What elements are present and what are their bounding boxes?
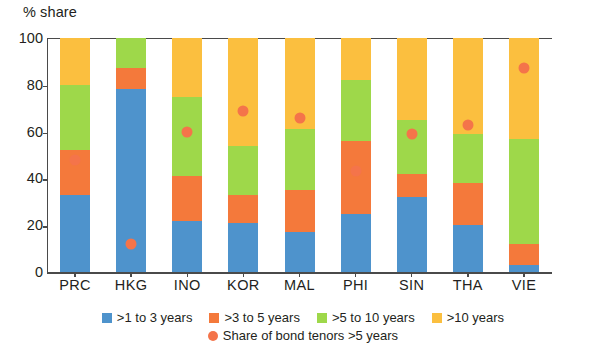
bar-segment[interactable] <box>285 190 315 232</box>
stacked-bar[interactable] <box>397 38 427 272</box>
legend-item-label: >3 to 5 years <box>224 310 300 325</box>
bars-container <box>47 38 552 272</box>
bar-segment[interactable] <box>228 38 258 146</box>
bar-group[interactable] <box>60 38 90 272</box>
stacked-bar[interactable] <box>228 38 258 272</box>
bar-group[interactable] <box>341 38 371 272</box>
overlay-marker[interactable] <box>350 166 361 177</box>
x-axis-tick-label: THA <box>440 277 496 293</box>
legend-row-series: >1 to 3 years>3 to 5 years>5 to 10 years… <box>102 310 504 325</box>
bar-segment[interactable] <box>453 134 483 183</box>
chart-legend: >1 to 3 years>3 to 5 years>5 to 10 years… <box>0 310 606 343</box>
legend-row-overlay: Share of bond tenors >5 years <box>208 328 398 343</box>
x-axis-tick-label: SIN <box>384 277 440 293</box>
bar-group[interactable] <box>453 38 483 272</box>
bar-segment[interactable] <box>172 221 202 272</box>
overlay-marker[interactable] <box>70 154 81 165</box>
bar-group[interactable] <box>397 38 427 272</box>
bar-segment[interactable] <box>60 195 90 272</box>
legend-circle-icon <box>208 331 218 341</box>
bar-group[interactable] <box>172 38 202 272</box>
y-axis-tick-label: 60 <box>7 124 43 140</box>
legend-square-icon <box>102 313 112 323</box>
legend-item[interactable]: Share of bond tenors >5 years <box>208 328 398 343</box>
overlay-marker[interactable] <box>406 128 417 139</box>
stacked-bar[interactable] <box>453 38 483 272</box>
overlay-marker[interactable] <box>126 238 137 249</box>
bar-segment[interactable] <box>172 38 202 97</box>
x-axis-tick-label: MAL <box>271 277 327 293</box>
x-axis-tick-label: PRC <box>47 277 103 293</box>
legend-item[interactable]: >10 years <box>432 310 504 325</box>
legend-square-icon <box>432 313 442 323</box>
bar-segment[interactable] <box>228 223 258 272</box>
legend-item[interactable]: >1 to 3 years <box>102 310 193 325</box>
bar-segment[interactable] <box>60 85 90 151</box>
bar-segment[interactable] <box>228 195 258 223</box>
bar-segment[interactable] <box>341 80 371 141</box>
overlay-marker[interactable] <box>518 63 529 74</box>
bar-segment[interactable] <box>285 232 315 272</box>
legend-square-icon <box>317 313 327 323</box>
legend-item-label: Share of bond tenors >5 years <box>223 328 398 343</box>
bar-segment[interactable] <box>60 38 90 85</box>
x-axis-tick-label: KOR <box>215 277 271 293</box>
bar-segment[interactable] <box>397 197 427 272</box>
overlay-marker[interactable] <box>182 126 193 137</box>
legend-item[interactable]: >3 to 5 years <box>209 310 300 325</box>
stacked-bar[interactable] <box>285 38 315 272</box>
bar-segment[interactable] <box>509 244 539 265</box>
bar-segment[interactable] <box>116 38 146 68</box>
overlay-marker[interactable] <box>294 112 305 123</box>
x-axis-tick-label: INO <box>159 277 215 293</box>
bar-segment[interactable] <box>453 225 483 272</box>
bar-group[interactable] <box>116 38 146 272</box>
stacked-bar[interactable] <box>172 38 202 272</box>
bar-segment[interactable] <box>341 141 371 214</box>
x-axis-tick-label: PHI <box>328 277 384 293</box>
bar-segment[interactable] <box>341 38 371 80</box>
bar-segment[interactable] <box>228 146 258 195</box>
y-axis: 020406080100 <box>0 0 43 348</box>
y-axis-tick-label: 100 <box>7 30 43 46</box>
stacked-bar[interactable] <box>116 38 146 272</box>
bar-group[interactable] <box>285 38 315 272</box>
bar-segment[interactable] <box>453 183 483 225</box>
bar-segment[interactable] <box>509 38 539 139</box>
bar-group[interactable] <box>509 38 539 272</box>
legend-item-label: >5 to 10 years <box>332 310 415 325</box>
y-axis-tick-label: 80 <box>7 77 43 93</box>
overlay-marker[interactable] <box>238 105 249 116</box>
bar-segment[interactable] <box>172 176 202 220</box>
legend-item-label: >10 years <box>447 310 504 325</box>
legend-item-label: >1 to 3 years <box>117 310 193 325</box>
stacked-bar-chart: % share 020406080100 >1 to 3 years>3 to … <box>0 0 606 348</box>
x-axis-tick-label: HKG <box>103 277 159 293</box>
bar-group[interactable] <box>228 38 258 272</box>
overlay-marker[interactable] <box>462 119 473 130</box>
stacked-bar[interactable] <box>341 38 371 272</box>
y-axis-tick-label: 20 <box>7 217 43 233</box>
x-axis-tick-label: VIE <box>496 277 552 293</box>
bar-segment[interactable] <box>116 68 146 89</box>
bar-segment[interactable] <box>509 265 539 272</box>
legend-item[interactable]: >5 to 10 years <box>317 310 415 325</box>
bar-segment[interactable] <box>341 214 371 273</box>
bar-segment[interactable] <box>397 174 427 197</box>
bar-segment[interactable] <box>285 129 315 190</box>
bar-segment[interactable] <box>397 38 427 120</box>
bar-segment[interactable] <box>509 139 539 244</box>
y-axis-tick-label: 0 <box>7 264 43 280</box>
y-axis-tick-label: 40 <box>7 170 43 186</box>
legend-square-icon <box>209 313 219 323</box>
